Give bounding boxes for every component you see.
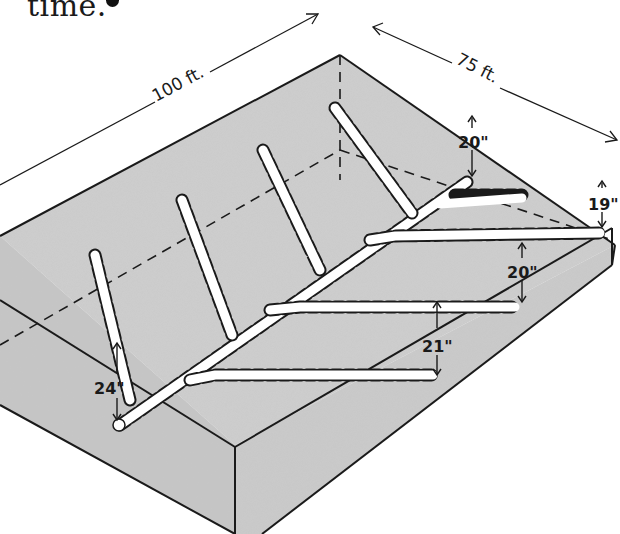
drainage-diagram: 100 ft. 75 ft. 20" 19" 20" 21" 24" xyxy=(0,0,620,534)
depth-label-24: 24" xyxy=(94,379,125,398)
width-label: 75 ft. xyxy=(453,49,502,87)
depth-label-19: 19" xyxy=(588,195,619,214)
depth-label-20: 20" xyxy=(507,263,538,282)
depth-label-21: 21" xyxy=(422,337,453,356)
outlet-end xyxy=(113,419,125,431)
length-label: 100 ft. xyxy=(148,62,206,106)
depth-label-upper: 20" xyxy=(458,133,489,152)
